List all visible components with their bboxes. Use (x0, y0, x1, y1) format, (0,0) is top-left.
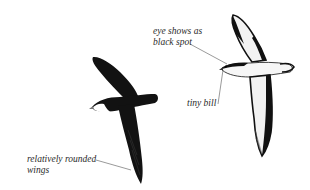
wings-leader-line (96, 160, 131, 170)
annotation-bill: tiny bill (187, 98, 216, 109)
annotation-bill-line-1: tiny bill (187, 98, 216, 109)
dark-bird (89, 57, 158, 184)
annotation-wings-line-2: wings (27, 165, 96, 176)
annotation-wings: relatively rounded wings (27, 154, 96, 175)
annotation-eye-line-2: black spot (153, 37, 202, 48)
eye-leader-line (190, 44, 227, 64)
annotation-eye-line-1: eye shows as (153, 26, 202, 37)
annotation-wings-line-1: relatively rounded (27, 154, 96, 165)
white-bird (219, 15, 294, 156)
illustration: eye shows as black spot tiny bill relati… (0, 0, 310, 190)
bill-leader-line (218, 70, 223, 104)
annotation-eye: eye shows as black spot (153, 26, 202, 47)
